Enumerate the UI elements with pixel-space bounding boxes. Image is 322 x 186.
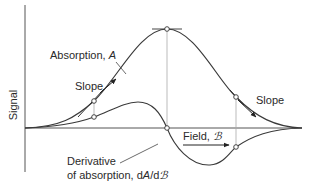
marker-center-derivative	[165, 126, 170, 131]
left-slope-tangent	[78, 89, 104, 117]
right-slope-arrow	[238, 100, 256, 117]
derivative-symbol-b: ℬ	[159, 169, 169, 181]
absorption-symbol: A	[108, 49, 116, 61]
slope-left-label: Slope	[75, 80, 103, 92]
field-label: Field, ℬ	[183, 130, 223, 142]
marker-right-absorption	[234, 95, 239, 100]
slope-right-label: Slope	[256, 94, 284, 106]
field-symbol: ℬ	[213, 130, 223, 142]
derivative-label-line1: Derivative	[67, 155, 116, 167]
absorption-label-text: Absorption,	[50, 49, 109, 61]
marker-left-derivative	[92, 115, 97, 120]
y-axis-label: Signal	[7, 90, 19, 121]
absorption-curve	[25, 29, 302, 128]
field-label-text: Field,	[183, 130, 213, 142]
derivative-symbol-a: A	[142, 169, 150, 181]
derivative-leader-line	[120, 144, 158, 163]
marker-right-derivative	[234, 145, 239, 150]
derivative-label-line2: of absorption, dA/dℬ	[67, 169, 169, 181]
marker-peak	[165, 27, 170, 32]
absorption-derivative-diagram: Signal Absorption, A Slope Slope Field, …	[0, 0, 322, 186]
derivative-label-text: of absorption, d	[67, 169, 143, 181]
derivative-slash-d: /d	[150, 169, 159, 181]
absorption-label: Absorption, A	[50, 49, 116, 61]
marker-left-absorption	[92, 99, 97, 104]
